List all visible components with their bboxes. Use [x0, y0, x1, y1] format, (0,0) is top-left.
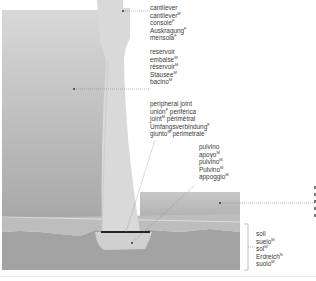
term-text: suolo — [256, 260, 271, 267]
label-term: bacinoM — [150, 78, 178, 86]
term-text: reservoir — [150, 48, 175, 55]
label-term: suoloM — [256, 260, 283, 268]
term-text: réservoir — [150, 63, 175, 70]
gender-marker: M — [219, 157, 222, 162]
gender-marker: F — [172, 18, 174, 23]
label-term: pulvinoM — [199, 158, 229, 166]
marker-pulvino — [131, 242, 133, 244]
term-text: giunto — [150, 130, 167, 137]
gender-marker: M — [220, 165, 223, 170]
term-suffix: périmétral — [165, 115, 195, 122]
term-text: apoyo — [199, 151, 216, 158]
gender-marker: F — [174, 33, 176, 38]
term-text: console — [150, 19, 172, 26]
dam-body — [97, 0, 140, 232]
gender-marker: M — [177, 11, 180, 16]
footer-divider — [0, 276, 316, 277]
label-term: jointM périmétral — [150, 115, 210, 123]
label-pulvino: pulvinoapoyoMpulvinoMPulvinoMappoggioM — [199, 143, 229, 181]
label-peripheral-joint: peripheral jointuniónF periféricajointM … — [150, 100, 210, 138]
gender-marker: M — [173, 70, 176, 75]
term-text: cantilever — [150, 4, 177, 11]
label-term: appoggioM — [199, 173, 229, 181]
soil-bracket — [244, 224, 248, 270]
partial-label-mark — [314, 193, 316, 196]
gender-marker: M — [174, 55, 177, 60]
label-term: peripheral joint — [150, 100, 210, 108]
term-text: joint — [150, 115, 162, 122]
partial-label-mark — [314, 186, 316, 189]
marker-downstream — [219, 202, 221, 204]
downstream-water — [140, 192, 240, 218]
term-text: peripheral joint — [150, 100, 192, 107]
term-text: bacino — [150, 78, 169, 85]
label-term: solM — [256, 245, 283, 253]
marker-reservoir — [73, 88, 75, 90]
gender-marker: M — [175, 62, 178, 67]
term-text: appoggio — [199, 173, 225, 180]
label-term: consoleF — [150, 19, 187, 27]
gender-marker: M — [225, 172, 228, 177]
reservoir-water — [2, 10, 112, 218]
pulvino-foundation — [95, 232, 152, 250]
gender-marker: M — [216, 150, 219, 155]
label-term: cantilever — [150, 4, 187, 12]
marker-cantilever — [122, 10, 124, 12]
partial-label-mark — [314, 200, 316, 203]
term-suffix: perimetrale — [171, 130, 205, 137]
gender-marker: M — [271, 259, 274, 264]
label-soil: soilsueloMsolMErdreichNsuoloM — [256, 230, 283, 268]
label-term: pulvino — [199, 143, 229, 151]
gender-marker: N — [280, 252, 283, 257]
gender-marker: M — [264, 244, 267, 249]
label-cantilever: cantilevercantileverMconsoleFAuskragungF… — [150, 4, 187, 42]
term-text: soil — [256, 230, 266, 237]
term-text: Umfangsverbindung — [150, 123, 207, 130]
term-suffix: periférica — [168, 108, 196, 115]
gender-marker: M — [271, 237, 274, 242]
term-text: Auskragung — [150, 27, 184, 34]
term-text: pulvino — [199, 158, 219, 165]
partial-label-mark — [314, 214, 316, 217]
term-text: embalse — [150, 56, 174, 63]
label-term: giuntoM perimetrale — [150, 130, 210, 138]
term-text: Erdreich — [256, 253, 280, 260]
gender-marker: F — [207, 122, 209, 127]
gender-marker: M — [169, 77, 172, 82]
term-text: Pulvino — [199, 166, 220, 173]
gender-marker: F — [184, 26, 186, 31]
label-term: mensolaF — [150, 34, 187, 42]
term-text: sol — [256, 245, 264, 252]
label-reservoir: reservoirembalseMréservoirMStauseeMbacin… — [150, 48, 178, 86]
label-term: soil — [256, 230, 283, 238]
term-text: mensola — [150, 34, 174, 41]
partial-label-mark — [314, 207, 316, 210]
